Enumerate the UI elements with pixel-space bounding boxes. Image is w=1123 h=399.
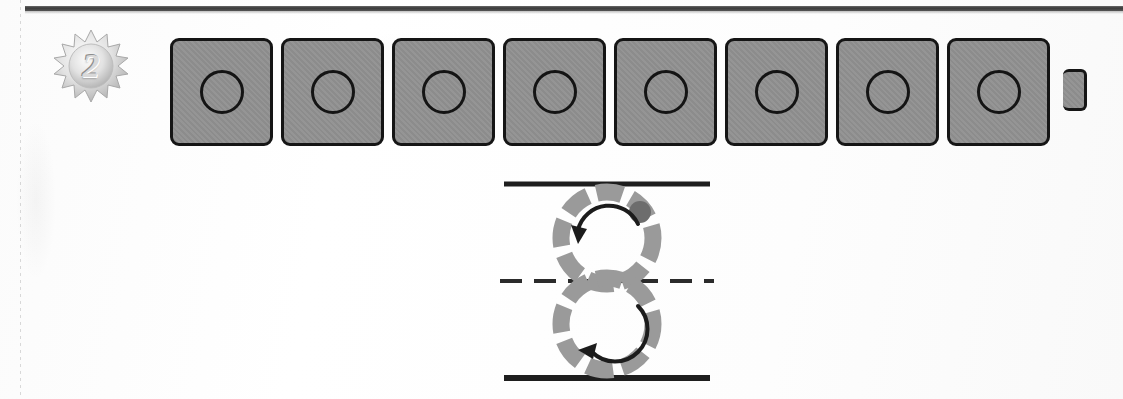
counter-rotating-wheels-diagram bbox=[492, 180, 722, 385]
upper-wheel-rotation-arrow bbox=[578, 206, 638, 230]
table-row[interactable] bbox=[947, 38, 1050, 146]
lower-wheel-rotation-arrow bbox=[592, 306, 648, 362]
strip-end-tab[interactable] bbox=[1063, 69, 1087, 111]
table-row[interactable] bbox=[281, 38, 384, 146]
circle-hole-icon bbox=[977, 70, 1021, 114]
circle-hole-icon bbox=[644, 70, 688, 114]
upper-wheel-marker-dot bbox=[629, 201, 651, 223]
table-row[interactable] bbox=[503, 38, 606, 146]
table-row[interactable] bbox=[725, 38, 828, 146]
circle-hole-icon bbox=[533, 70, 577, 114]
table-row[interactable] bbox=[392, 38, 495, 146]
scan-smudge-left bbox=[16, 120, 56, 280]
circle-hole-icon bbox=[422, 70, 466, 114]
circle-hole-icon bbox=[866, 70, 910, 114]
circle-hole-icon bbox=[200, 70, 244, 114]
top-rule-shadow bbox=[25, 11, 1123, 14]
upper-wheel-arrowhead bbox=[571, 225, 587, 244]
badge-number: 2 bbox=[54, 29, 128, 103]
table-row[interactable] bbox=[614, 38, 717, 146]
figure-page: 2 bbox=[0, 0, 1123, 399]
sunburst-badge-icon: 2 bbox=[54, 29, 128, 103]
table-row[interactable] bbox=[836, 38, 939, 146]
circle-hole-icon bbox=[311, 70, 355, 114]
circle-hole-icon bbox=[755, 70, 799, 114]
table-row[interactable] bbox=[170, 38, 273, 146]
